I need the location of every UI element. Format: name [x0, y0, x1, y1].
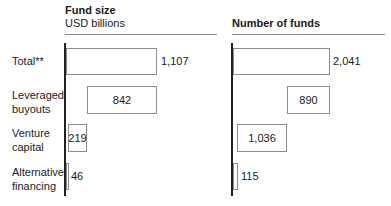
- category-label-alternative-financing: Alternative financing: [12, 165, 64, 193]
- number-of-funds-value-total: 2,041: [333, 55, 361, 68]
- category-label-line: Alternative: [12, 165, 64, 179]
- category-label-venture-capital: Venture capital: [12, 126, 50, 154]
- category-label-line: financing: [12, 179, 64, 193]
- fund-size-header-rule: [65, 34, 217, 35]
- number-of-funds-bar-venture-capital: 1,036: [237, 124, 287, 152]
- fund-size-bar-total: [66, 48, 157, 75]
- fund-size-value-venture-capital: 219: [68, 132, 86, 144]
- fund-size-value-leveraged-buyouts: 842: [113, 94, 131, 106]
- category-label-leveraged-buyouts: Leveraged buyouts: [12, 88, 64, 116]
- fund-size-title: Fund size: [65, 4, 116, 16]
- number-of-funds-value-venture-capital: 1,036: [248, 132, 276, 144]
- number-of-funds-title: Number of funds: [232, 17, 320, 29]
- fund-size-value-total: 1,107: [161, 55, 189, 68]
- category-label-total: Total**: [12, 54, 44, 68]
- number-of-funds-bar-alternative-financing: [233, 163, 238, 190]
- number-of-funds-header-rule: [232, 34, 385, 35]
- fund-size-bar-leveraged-buyouts: 842: [87, 86, 157, 114]
- number-of-funds-value-alternative-financing: 115: [241, 170, 259, 183]
- category-label-line: capital: [12, 140, 50, 154]
- category-label-line: Leveraged: [12, 88, 64, 102]
- category-label-line: Venture: [12, 126, 50, 140]
- number-of-funds-value-leveraged-buyouts: 890: [299, 94, 317, 106]
- fund-size-bar-venture-capital: 219: [68, 124, 87, 152]
- fund-size-bar-alternative-financing: [66, 163, 69, 190]
- category-label-line: Total**: [12, 55, 44, 67]
- fund-size-subtitle: USD billions: [65, 17, 125, 29]
- number-of-funds-bar-leveraged-buyouts: 890: [287, 86, 330, 114]
- number-of-funds-bar-total: [233, 48, 330, 75]
- category-label-line: buyouts: [12, 102, 64, 116]
- fund-size-value-alternative-financing: 46: [71, 170, 83, 183]
